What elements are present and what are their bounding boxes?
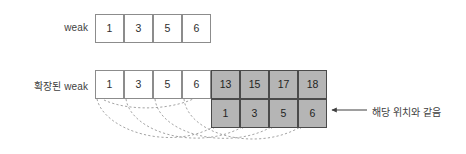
weak-cell-0: 1	[95, 14, 124, 43]
extended-cell-4: 13	[211, 70, 240, 99]
annotation-label: 해당 위치와 같음	[372, 104, 441, 119]
row-label-weak: weak	[10, 22, 88, 33]
extended-cell-7: 18	[298, 70, 327, 99]
extended-cell-6: 17	[269, 70, 298, 99]
weak-cell-2: 5	[153, 14, 182, 43]
arc-0	[97, 99, 215, 138]
mapped-cell-1: 3	[240, 99, 269, 128]
diagram-canvas: weak 1 3 5 6 확장된 weak 1 3 5 6 13 15 17 1…	[0, 0, 466, 154]
extended-cell-5: 15	[240, 70, 269, 99]
mapped-cell-0: 1	[211, 99, 240, 128]
extended-cell-2: 5	[153, 70, 182, 99]
row-label-extended-weak: 확장된 weak	[2, 78, 88, 93]
extended-cell-0: 1	[95, 70, 124, 99]
weak-cell-1: 3	[124, 14, 153, 43]
extended-cell-3: 6	[182, 70, 211, 99]
weak-cell-3: 6	[182, 14, 211, 43]
mapped-cell-3: 6	[298, 99, 327, 128]
extended-cell-1: 3	[124, 70, 153, 99]
mapped-cell-2: 5	[269, 99, 298, 128]
